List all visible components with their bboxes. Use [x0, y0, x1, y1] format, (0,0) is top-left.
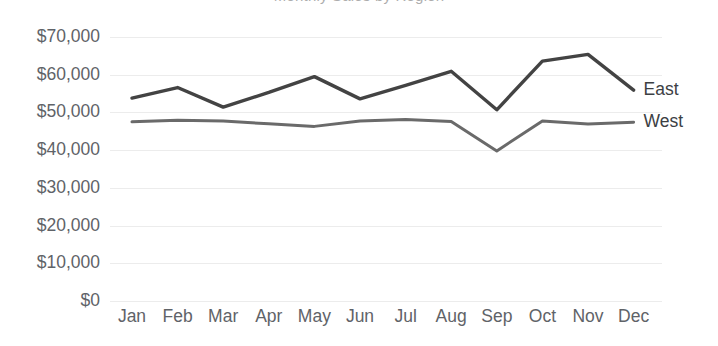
- x-axis-tick-label: Aug: [436, 308, 467, 326]
- series-line-west: [132, 120, 634, 151]
- x-axis-tick-label: Dec: [618, 308, 649, 326]
- x-axis-tick-label: Mar: [208, 308, 238, 326]
- series-label-east: East: [644, 81, 679, 99]
- y-axis-tick-label: $60,000: [0, 66, 100, 84]
- y-axis-tick-label: $0: [0, 292, 100, 310]
- x-axis-tick-label: Jul: [394, 308, 416, 326]
- x-axis-tick-label: Apr: [255, 308, 282, 326]
- y-axis-tick-label: $10,000: [0, 255, 100, 273]
- line-chart: Monthly Sales by Region $70,000$60,000$5…: [0, 0, 718, 346]
- x-axis-tick-label: May: [298, 308, 331, 326]
- y-axis-tick-label: $30,000: [0, 179, 100, 197]
- x-axis-tick-label: Jan: [118, 308, 146, 326]
- series-line-east: [132, 54, 634, 109]
- y-axis-tick-label: $40,000: [0, 141, 100, 159]
- x-axis-tick-label: Sep: [481, 308, 512, 326]
- series-lines: [110, 0, 662, 346]
- x-axis-tick-label: Nov: [572, 308, 603, 326]
- x-axis-tick-label: Oct: [529, 308, 556, 326]
- y-axis-tick-label: $20,000: [0, 217, 100, 235]
- y-axis-tick-label: $70,000: [0, 28, 100, 46]
- x-axis-tick-label: Feb: [163, 308, 193, 326]
- plot-area: [110, 0, 662, 346]
- series-label-west: West: [644, 113, 684, 131]
- x-axis: JanFebMarAprMayJunJulAugSepOctNovDec: [110, 308, 662, 338]
- x-axis-tick-label: Jun: [346, 308, 374, 326]
- y-axis-tick-label: $50,000: [0, 104, 100, 122]
- y-axis: $70,000$60,000$50,000$40,000$30,000$20,0…: [0, 0, 100, 346]
